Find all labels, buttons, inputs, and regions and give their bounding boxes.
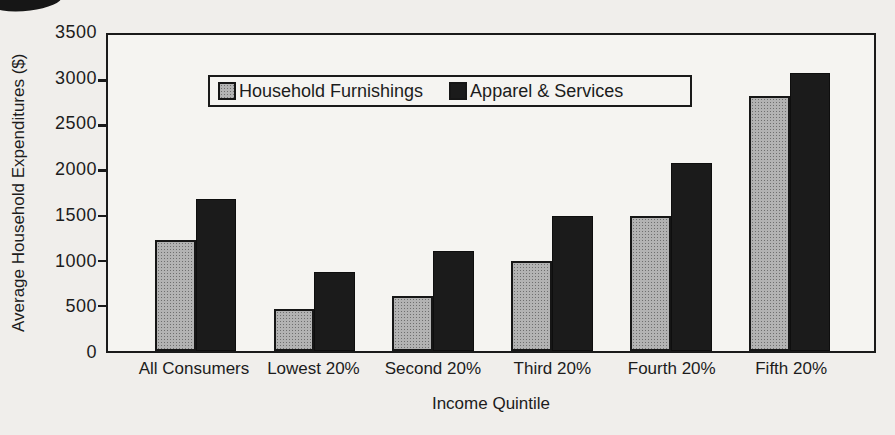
bar-apparel-services bbox=[790, 73, 831, 351]
plot-area: Household Furnishings Apparel & Services bbox=[106, 33, 876, 353]
household-furnishings-swatch-icon bbox=[218, 82, 236, 100]
bar-household-furnishings bbox=[155, 240, 196, 351]
y-tick-label: 1000 bbox=[55, 251, 97, 272]
y-tick-mark bbox=[98, 215, 107, 218]
apparel-services-swatch-icon bbox=[449, 82, 467, 100]
legend-label-household-furnishings: Household Furnishings bbox=[239, 81, 423, 102]
bar-apparel-services bbox=[196, 199, 237, 351]
bar-apparel-services bbox=[314, 272, 355, 351]
x-tick-label: Fifth 20% bbox=[755, 359, 827, 379]
bar-group bbox=[749, 35, 831, 351]
x-axis-tick-labels: All ConsumersLowest 20%Second 20%Third 2… bbox=[106, 359, 876, 381]
bar-household-furnishings bbox=[749, 96, 790, 351]
bar-chart-figure: Average Household Expenditures ($) 05001… bbox=[0, 0, 895, 435]
y-tick-label: 3500 bbox=[55, 22, 97, 43]
legend: Household Furnishings Apparel & Services bbox=[208, 75, 692, 107]
y-tick-mark bbox=[98, 305, 107, 308]
bar-household-furnishings bbox=[630, 216, 671, 351]
y-tick-label: 500 bbox=[65, 296, 97, 317]
bar-apparel-services bbox=[433, 251, 474, 351]
y-tick-mark bbox=[98, 79, 107, 82]
bar-household-furnishings bbox=[511, 261, 552, 351]
y-tick-label: 1500 bbox=[55, 205, 97, 226]
legend-label-apparel-services: Apparel & Services bbox=[470, 81, 623, 102]
y-tick-mark bbox=[98, 260, 107, 263]
y-tick-mark bbox=[98, 124, 107, 127]
y-tick-label: 2500 bbox=[55, 114, 97, 135]
x-tick-label: Second 20% bbox=[385, 359, 481, 379]
y-tick-label: 0 bbox=[86, 342, 97, 363]
x-tick-label: All Consumers bbox=[139, 359, 250, 379]
x-tick-label: Fourth 20% bbox=[628, 359, 716, 379]
y-tick-label: 3000 bbox=[55, 68, 97, 89]
bar-apparel-services bbox=[671, 163, 712, 351]
bar-household-furnishings bbox=[274, 309, 315, 351]
legend-item-apparel-services: Apparel & Services bbox=[449, 81, 623, 102]
bar-apparel-services bbox=[552, 216, 593, 351]
x-tick-label: Lowest 20% bbox=[267, 359, 360, 379]
x-tick-label: Third 20% bbox=[514, 359, 591, 379]
y-tick-mark bbox=[98, 169, 107, 172]
y-axis-tick-labels: 0500100015002000250030003500 bbox=[0, 33, 97, 353]
legend-item-household-furnishings: Household Furnishings bbox=[218, 81, 423, 102]
bar-household-furnishings bbox=[392, 296, 433, 351]
y-tick-label: 2000 bbox=[55, 159, 97, 180]
x-axis-title: Income Quintile bbox=[106, 394, 876, 414]
scan-artifact-mark bbox=[0, 0, 63, 15]
